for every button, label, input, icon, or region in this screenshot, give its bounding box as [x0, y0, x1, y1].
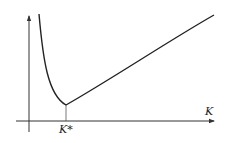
x-axis-label: K: [204, 105, 214, 118]
cost-curve: [39, 14, 214, 105]
minimum-label: K*: [58, 123, 73, 136]
diagram-canvas: K K*: [0, 0, 228, 143]
